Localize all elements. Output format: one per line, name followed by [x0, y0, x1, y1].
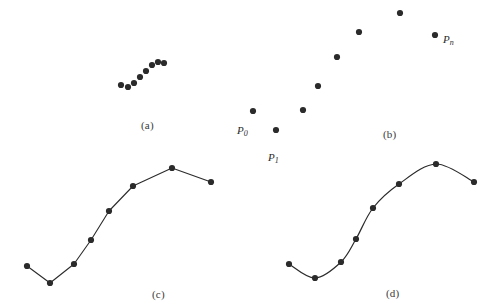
- data-point: [161, 60, 167, 66]
- data-point: [273, 127, 279, 133]
- data-point: [397, 10, 403, 16]
- data-point: [334, 54, 340, 60]
- caption-b: (b): [383, 128, 396, 140]
- data-point: [155, 59, 161, 65]
- data-point: [432, 32, 438, 38]
- data-point: [396, 181, 402, 187]
- point-label-P0: P0: [237, 124, 248, 136]
- data-point: [130, 183, 136, 189]
- data-point: [471, 179, 477, 185]
- data-point: [137, 74, 143, 80]
- data-point: [71, 261, 77, 267]
- panel-b: [250, 10, 438, 133]
- figure-canvas: [0, 0, 492, 307]
- data-point: [353, 236, 359, 242]
- caption-d: (d): [386, 287, 399, 299]
- spline-curve-d: [289, 164, 474, 278]
- panel-a: [118, 59, 167, 90]
- data-point: [315, 83, 321, 89]
- data-point: [370, 205, 376, 211]
- point-label-Pn: Pn: [443, 33, 454, 45]
- data-point: [24, 263, 30, 269]
- caption-c: (c): [152, 288, 165, 300]
- data-point: [118, 82, 124, 88]
- point-label-P1: P1: [268, 151, 279, 163]
- data-point: [300, 107, 306, 113]
- data-point: [131, 80, 137, 86]
- data-point: [208, 179, 214, 185]
- data-point: [47, 280, 53, 286]
- data-point: [169, 165, 175, 171]
- data-point: [125, 84, 131, 90]
- caption-a: (a): [141, 119, 154, 131]
- data-point: [338, 259, 344, 265]
- data-point: [143, 68, 149, 74]
- data-point: [312, 275, 318, 281]
- data-point: [149, 62, 155, 68]
- data-point: [106, 208, 112, 214]
- panel-c: [24, 165, 214, 286]
- panel-d: [286, 161, 477, 281]
- data-point: [250, 108, 256, 114]
- data-point: [356, 29, 362, 35]
- polyline-c: [27, 168, 211, 283]
- figure-root: (a)P0P1Pn(b)(c)(d): [0, 0, 492, 307]
- data-point: [433, 161, 439, 167]
- data-point: [88, 237, 94, 243]
- data-point: [286, 261, 292, 267]
